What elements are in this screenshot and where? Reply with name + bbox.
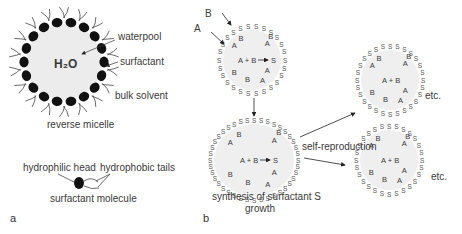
- svg-text:S: S: [272, 121, 277, 128]
- svg-text:A: A: [272, 136, 277, 145]
- panel-b-label: b: [203, 212, 209, 224]
- svg-text:S: S: [381, 43, 386, 50]
- svg-text:S: S: [238, 25, 243, 32]
- svg-text:B: B: [245, 75, 250, 84]
- svg-text:S: S: [279, 72, 284, 79]
- svg-text:B: B: [232, 68, 237, 77]
- svg-text:S: S: [388, 43, 393, 50]
- svg-text:S: S: [355, 164, 360, 171]
- svg-text:S: S: [366, 130, 371, 137]
- svg-text:A + B: A + B: [381, 156, 399, 165]
- svg-text:S: S: [402, 107, 407, 114]
- svg-text:S: S: [282, 48, 287, 55]
- svg-text:S: S: [374, 107, 379, 114]
- svg-text:S: S: [380, 123, 385, 130]
- svg-text:A: A: [272, 168, 277, 177]
- svg-text:S: S: [232, 121, 237, 128]
- svg-text:S: S: [417, 142, 422, 149]
- svg-text:S: S: [420, 69, 425, 76]
- svg-text:S: S: [262, 88, 267, 95]
- svg-text:S: S: [367, 50, 372, 57]
- svg-text:A: A: [260, 76, 265, 85]
- molecule-head: [74, 177, 84, 189]
- svg-text:S: S: [417, 171, 422, 178]
- svg-text:S: S: [366, 183, 371, 190]
- svg-text:S: S: [231, 29, 236, 36]
- svg-text:S: S: [361, 178, 366, 185]
- svg-text:S: S: [221, 128, 226, 135]
- svg-text:A + B: A + B: [240, 156, 258, 165]
- input-a-arrow: [211, 32, 224, 44]
- svg-text:S: S: [387, 123, 392, 130]
- svg-text:S: S: [226, 124, 231, 131]
- svg-text:S: S: [282, 65, 287, 72]
- svg-text:S: S: [387, 191, 392, 198]
- svg-text:S: S: [414, 98, 419, 105]
- svg-text:S: S: [246, 23, 251, 30]
- vesicles: SSSSSSSSSSSSSSSSSSSSSSSSSSABABBBAAA + BS…: [208, 23, 426, 204]
- svg-text:S: S: [254, 90, 259, 97]
- svg-text:S: S: [208, 157, 213, 164]
- svg-text:S: S: [238, 118, 243, 125]
- svg-text:S: S: [357, 171, 362, 178]
- svg-text:S: S: [418, 91, 423, 98]
- svg-text:S: S: [420, 157, 425, 164]
- svg-text:S: S: [279, 41, 284, 48]
- svg-text:S: S: [275, 79, 280, 86]
- svg-text:S: S: [216, 180, 221, 187]
- svg-text:S: S: [283, 57, 288, 64]
- svg-text:S: S: [419, 149, 424, 156]
- svg-text:S: S: [291, 175, 296, 182]
- svg-text:A: A: [232, 41, 237, 50]
- svg-text:S: S: [388, 111, 393, 118]
- svg-text:S: S: [218, 48, 223, 55]
- svg-text:S: S: [408, 183, 413, 190]
- svg-text:B: B: [406, 52, 411, 61]
- svg-text:S: S: [252, 117, 257, 124]
- svg-text:A + B: A + B: [238, 56, 256, 65]
- svg-text:A: A: [403, 86, 408, 95]
- reproduction-arrow-down: [304, 158, 345, 165]
- svg-text:S: S: [395, 43, 400, 50]
- svg-text:S: S: [418, 62, 423, 69]
- waterpool-label: waterpool: [117, 31, 161, 42]
- svg-text:S: S: [259, 117, 264, 124]
- svg-text:S: S: [409, 103, 414, 110]
- etc-label-top: etc.: [425, 90, 441, 101]
- svg-text:S: S: [209, 163, 214, 170]
- svg-text:S: S: [421, 77, 426, 84]
- svg-text:S: S: [269, 84, 274, 91]
- svg-text:S: S: [356, 84, 361, 91]
- svg-text:B: B: [370, 88, 375, 97]
- svg-text:S: S: [262, 25, 267, 32]
- svg-text:S: S: [374, 46, 379, 53]
- svg-text:S: S: [209, 150, 214, 157]
- svg-text:S: S: [395, 110, 400, 117]
- tails-pointer-1: [96, 174, 110, 181]
- hydrophilic-head-label: hydrophilic head: [23, 162, 96, 173]
- svg-text:B: B: [369, 168, 374, 177]
- svg-text:S: S: [358, 91, 363, 98]
- svg-text:S: S: [355, 77, 360, 84]
- svg-text:A: A: [398, 96, 403, 105]
- svg-text:S: S: [381, 110, 386, 117]
- svg-text:A: A: [370, 61, 375, 70]
- svg-text:A: A: [397, 176, 402, 185]
- svg-text:B: B: [238, 34, 243, 43]
- svg-text:S: S: [288, 180, 293, 187]
- svg-text:S: S: [254, 23, 259, 30]
- reverse-micelle: H₂O: [9, 7, 119, 117]
- svg-text:A + B: A + B: [382, 76, 400, 85]
- svg-text:S: S: [273, 156, 278, 165]
- svg-text:S: S: [295, 150, 300, 157]
- tails-pointer-2: [98, 174, 110, 187]
- synthesis-caption: synthesis of surfactant S: [212, 191, 321, 202]
- svg-text:B: B: [405, 132, 410, 141]
- svg-text:S: S: [217, 57, 222, 64]
- input-a-label: A: [194, 23, 201, 34]
- etc-label-bottom: etc.: [431, 171, 447, 182]
- svg-text:S: S: [246, 90, 251, 97]
- svg-text:S: S: [238, 88, 243, 95]
- svg-text:S: S: [394, 123, 399, 130]
- head-pointer: [58, 174, 74, 182]
